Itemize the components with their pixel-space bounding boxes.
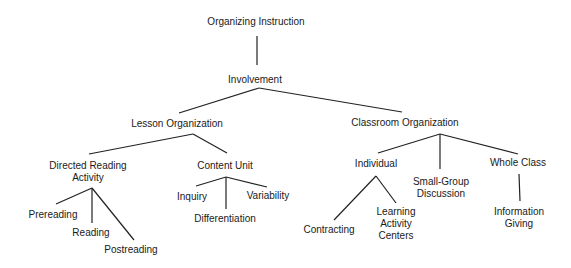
node-label-line: Information: [494, 206, 544, 218]
node-information-giving: Information Giving: [494, 206, 544, 230]
node-label-line: Small-Group: [413, 176, 469, 188]
node-small-group-discussion: Small-Group Discussion: [413, 176, 469, 200]
node-differentiation: Differentiation: [194, 213, 256, 225]
edge-individual-contracting: [334, 176, 376, 220]
edge-dra-prereading: [56, 188, 92, 204]
node-label-line: Centers: [377, 230, 416, 242]
node-organizing-instruction: Organizing Instruction: [207, 16, 304, 28]
node-involvement: Involvement: [228, 74, 282, 86]
node-label-line: Activity: [377, 218, 416, 230]
node-content-unit: Content Unit: [197, 160, 253, 172]
node-label-line: Learning: [377, 206, 416, 218]
edge-involvement-lesson: [179, 88, 259, 113]
node-label-line: Directed Reading: [49, 160, 126, 172]
node-contracting: Contracting: [303, 224, 354, 236]
node-label-line: Giving: [494, 218, 544, 230]
node-variability: Variability: [247, 190, 290, 202]
node-whole-class: Whole Class: [490, 157, 546, 169]
node-learning-activity-centers: Learning Activity Centers: [377, 206, 416, 242]
edge-individual-learning: [376, 176, 396, 203]
node-inquiry: Inquiry: [177, 191, 207, 203]
tree-diagram: Organizing Instruction Involvement Lesso…: [0, 0, 571, 268]
node-label-line: Activity: [49, 172, 126, 184]
node-postreading: Postreading: [104, 244, 157, 256]
edge-lesson-content: [193, 134, 227, 153]
node-directed-reading-activity: Directed Reading Activity: [49, 160, 126, 184]
edge-lesson-dra: [89, 134, 193, 154]
node-classroom-organization: Classroom Organization: [351, 117, 458, 129]
node-lesson-organization: Lesson Organization: [131, 118, 223, 130]
node-individual: Individual: [355, 158, 397, 170]
node-label-line: Discussion: [413, 188, 469, 200]
node-prereading: Prereading: [29, 209, 78, 221]
edge-wholeclass-info: [519, 174, 520, 201]
edge-content-variability: [226, 177, 267, 187]
node-reading: Reading: [72, 227, 109, 239]
edge-involvement-classroom: [259, 88, 402, 112]
edge-classroom-individual: [378, 134, 440, 153]
edge-classroom-wholeclass: [440, 134, 518, 154]
edge-content-inquiry: [196, 177, 226, 186]
